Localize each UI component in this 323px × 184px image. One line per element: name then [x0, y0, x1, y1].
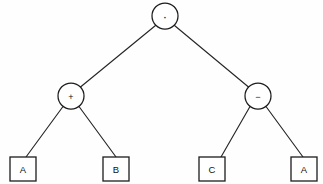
leaf-node-a-left: A — [10, 157, 36, 181]
leaf-node-b: B — [103, 157, 129, 181]
edge-minus-to-leaf-a — [266, 107, 303, 158]
expression-tree-diagram: · + − A B C A — [0, 0, 323, 184]
edge-root-to-plus — [81, 26, 156, 88]
leaf-label-c: C — [209, 164, 216, 175]
node-minus: − — [245, 83, 271, 109]
node-root-label: · — [163, 9, 167, 24]
edge-plus-to-leaf-a — [26, 107, 63, 158]
leaf-label-a-left: A — [20, 164, 27, 175]
node-plus: + — [58, 83, 84, 109]
leaf-node-c: C — [199, 157, 225, 181]
node-root: · — [152, 3, 178, 29]
edge-minus-to-leaf-c — [221, 107, 250, 158]
node-plus-label: + — [68, 92, 73, 102]
node-minus-label: − — [255, 92, 260, 102]
leaf-label-b: B — [113, 164, 119, 175]
edge-plus-to-leaf-b — [79, 107, 116, 158]
edge-root-to-minus — [175, 26, 249, 88]
leaf-label-a-right: A — [301, 164, 308, 175]
leaf-node-a-right: A — [291, 157, 317, 181]
